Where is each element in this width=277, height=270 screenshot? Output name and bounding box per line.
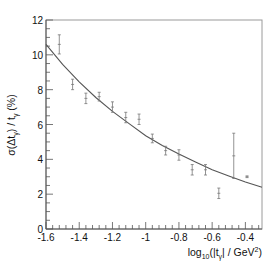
y-tick-label: 10 bbox=[32, 50, 44, 61]
chart: -1.6-1.4-1.2-1-0.8-0.6-0.4024681012 σ(Δt… bbox=[0, 0, 277, 270]
x-tick-label: -0.8 bbox=[170, 232, 188, 243]
y-tick-label: 6 bbox=[37, 120, 43, 131]
fit-curve bbox=[46, 44, 262, 187]
data-point bbox=[217, 188, 220, 198]
y-tick-label: 2 bbox=[37, 189, 43, 200]
x-tick-label: -0.4 bbox=[237, 232, 255, 243]
data-point bbox=[151, 134, 154, 143]
y-tick-label: 8 bbox=[37, 85, 43, 96]
x-tick-label: -1.4 bbox=[71, 232, 89, 243]
data-point bbox=[191, 165, 194, 175]
y-tick-label: 4 bbox=[37, 154, 43, 165]
x-tick-label: -0.6 bbox=[204, 232, 222, 243]
x-tick-label: -1.2 bbox=[104, 232, 122, 243]
x-axis-title: log10(|tγ| / GeV2) bbox=[188, 246, 262, 261]
y-tick-label: 12 bbox=[32, 15, 44, 26]
data-point bbox=[124, 112, 127, 122]
data-point bbox=[71, 79, 74, 89]
x-tick-label: -1 bbox=[141, 232, 150, 243]
data-point bbox=[232, 133, 235, 178]
data-point bbox=[138, 114, 141, 124]
y-axis-title: σ(Δtγ) / tγ (%) bbox=[5, 94, 20, 155]
data-point bbox=[58, 35, 61, 54]
data-point bbox=[177, 150, 180, 160]
data-point bbox=[84, 93, 87, 103]
data-point bbox=[246, 176, 249, 178]
y-tick-label: 0 bbox=[37, 224, 43, 235]
plot-frame bbox=[46, 20, 262, 229]
